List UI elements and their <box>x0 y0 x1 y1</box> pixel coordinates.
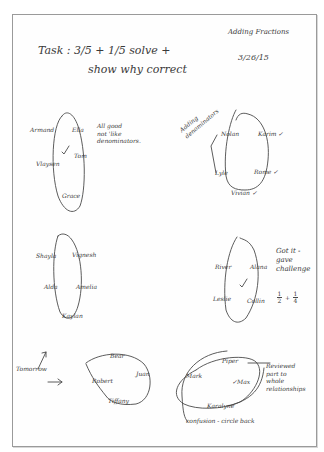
student-name: Shayla <box>36 253 56 259</box>
group-1-note: All good not 'like denominators. <box>97 122 141 145</box>
date-label: 3/26/15 <box>238 54 269 62</box>
student-name: Rome ✓ <box>254 169 278 175</box>
task-line-1: Task : 3/5 + 1/5 solve + <box>38 45 170 56</box>
task-line-2: show why correct <box>88 64 187 75</box>
fraction-denominator: 4 <box>294 298 298 304</box>
challenge-fraction: 1 2 + 1 4 <box>277 291 298 304</box>
group-3-loop <box>54 234 82 318</box>
student-name: Juan <box>136 371 150 377</box>
student-name: Nolan <box>221 131 239 137</box>
student-name: Tiffany <box>108 398 129 404</box>
group-6-footer: confusion - circle back <box>186 418 255 424</box>
student-name: Vivian ✓ <box>231 190 257 196</box>
student-name: Ella <box>72 127 84 133</box>
group-6-note: Reviewed part to whole relationships <box>266 362 306 392</box>
group-4-loop <box>225 237 258 322</box>
student-name: Tom <box>74 153 87 159</box>
student-name: Alana <box>250 264 267 270</box>
group-4-note: Got it - gave challenge <box>276 247 310 273</box>
student-name: Amelia <box>76 284 97 290</box>
arrow-right <box>48 379 62 385</box>
group-2-loop <box>225 110 268 190</box>
student-name: Kaylan <box>62 313 83 319</box>
student-name: Karim ✓ <box>258 131 283 137</box>
group-1-check <box>62 146 69 154</box>
student-name: Alda <box>44 284 58 290</box>
tomorrow-label: Tomorrow <box>16 366 47 372</box>
student-name: Mark <box>186 373 202 379</box>
student-name: Vlaysen <box>36 161 60 167</box>
topic-label: Adding Fractions <box>228 29 289 36</box>
student-name: Vignesh <box>72 252 96 258</box>
student-name: Grace <box>62 193 80 199</box>
fraction-denominator: 2 <box>278 298 282 304</box>
student-name: Armand <box>30 127 54 133</box>
student-name: Bear <box>110 353 124 359</box>
student-name: Robert <box>92 378 113 384</box>
plus-sign: + <box>285 294 290 301</box>
group-2-bracket <box>211 135 217 173</box>
group-4-check <box>240 279 247 287</box>
group-6-outer-arc <box>182 351 227 422</box>
student-name: Collin <box>247 298 265 304</box>
student-name: Lyle <box>215 170 228 176</box>
student-name: ✓Max <box>232 379 250 385</box>
student-name: Piper <box>222 358 238 364</box>
student-name: River <box>215 264 231 270</box>
student-name: Leslie <box>213 296 231 302</box>
student-name: Karalyne <box>207 403 234 409</box>
